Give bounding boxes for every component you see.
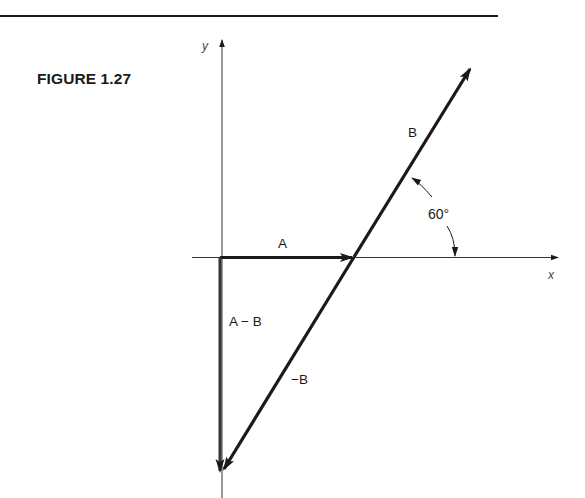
vector-b: B bbox=[354, 69, 470, 257]
angle-indicator: 60° bbox=[412, 178, 455, 256]
y-axis-label: y bbox=[201, 39, 209, 53]
vector-a-label: A bbox=[278, 236, 287, 251]
angle-label: 60° bbox=[428, 206, 449, 222]
vector-a-minus-b-label: A − B bbox=[229, 314, 262, 329]
x-axis: x bbox=[192, 258, 558, 283]
x-axis-label: x bbox=[547, 268, 555, 282]
vector-neg-b: −B bbox=[224, 257, 354, 469]
vector-a: A bbox=[220, 236, 352, 258]
vector-b-label: B bbox=[408, 125, 417, 140]
vector-diagram: y x A B −B A − B 60° bbox=[0, 0, 585, 498]
vector-neg-b-label: −B bbox=[291, 372, 308, 387]
